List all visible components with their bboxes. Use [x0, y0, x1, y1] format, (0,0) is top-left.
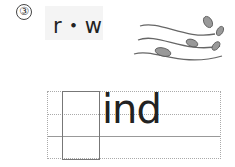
exercise-number: ③ — [16, 4, 32, 20]
answer-box[interactable] — [62, 91, 100, 160]
writing-lines: ind — [47, 91, 221, 159]
wind-leaves-icon — [130, 8, 230, 68]
left-edge — [47, 91, 48, 159]
letter-choices: r・w — [53, 9, 103, 39]
right-edge — [220, 91, 221, 159]
word-suffix: ind — [102, 79, 161, 139]
letter-choices-box: r・w — [45, 6, 103, 40]
